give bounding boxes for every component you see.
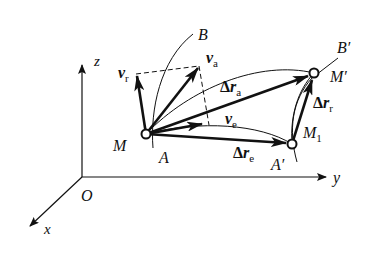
vector-delta-r-e — [146, 134, 286, 143]
label-M1-sub: 1 — [316, 132, 322, 144]
label-delta-r-a: Δra — [220, 78, 241, 98]
label-M1: M1 — [302, 124, 322, 144]
axis-label-z: z — [93, 53, 100, 69]
point-M — [142, 130, 151, 139]
point-M1 — [288, 140, 297, 149]
label-v-r: vr — [118, 64, 129, 84]
axis-label-y: y — [331, 169, 341, 187]
label-v-a: va — [206, 49, 218, 69]
label-M-prime: M′ — [329, 68, 347, 85]
origin-label: O — [81, 187, 93, 204]
axis-label-x: x — [43, 221, 51, 237]
label-M: M — [112, 137, 128, 154]
vector-v-r — [137, 76, 146, 134]
x-axis — [30, 177, 82, 226]
label-delta-r-e: Δre — [233, 144, 254, 164]
label-B-prime: B′ — [337, 39, 351, 56]
coordinate-axes — [30, 65, 326, 226]
label-delta-r-r: Δrr — [313, 94, 333, 114]
label-B: B — [198, 26, 208, 43]
relative-motion-diagram: z y x O M A B B′ M′ A′ M1 vr va ve Δra Δ… — [0, 0, 373, 264]
point-M-prime — [310, 69, 319, 78]
label-A: A — [158, 149, 169, 166]
label-A-prime: A′ — [270, 156, 285, 173]
parallelogram-right-dashed — [199, 66, 209, 125]
